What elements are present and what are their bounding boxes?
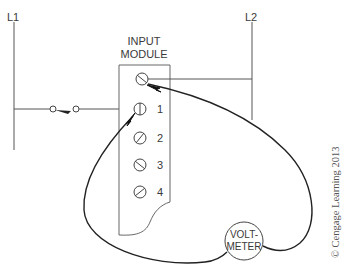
module-title-line1: INPUT bbox=[104, 35, 184, 47]
switch-contact-right bbox=[73, 106, 79, 112]
terminal-1-label: 1 bbox=[157, 103, 163, 115]
terminal-3-label: 3 bbox=[157, 159, 163, 171]
voltmeter-label-line2: METER bbox=[224, 241, 264, 252]
switch-contact-left bbox=[50, 106, 56, 112]
l2-label: L2 bbox=[245, 11, 257, 23]
l1-label: L1 bbox=[7, 11, 19, 23]
terminal-4-label: 4 bbox=[157, 186, 163, 198]
copyright-notice: © Cengage Learning 2013 bbox=[330, 147, 341, 259]
module-title-line2: MODULE bbox=[104, 48, 184, 60]
terminal-2-label: 2 bbox=[157, 132, 163, 144]
probe-lead-common bbox=[148, 84, 312, 251]
switch-blade bbox=[55, 110, 71, 114]
voltmeter-label-line1: VOLT- bbox=[224, 229, 264, 240]
input-module-box bbox=[119, 65, 170, 235]
